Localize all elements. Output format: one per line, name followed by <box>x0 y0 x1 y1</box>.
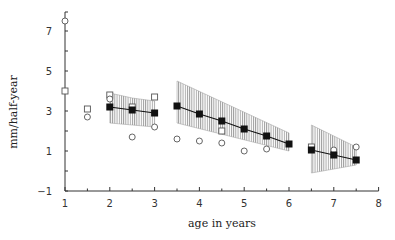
x-tick-label: 8 <box>375 198 381 209</box>
x-tick-label: 7 <box>331 198 337 209</box>
y-tick-label: 7 <box>46 26 52 37</box>
x-axis-label: age in years <box>188 217 256 230</box>
open-circle-point <box>241 148 247 154</box>
open-circle-point <box>353 144 359 150</box>
open-circle-point <box>107 96 113 102</box>
x-tick-label: 6 <box>286 198 292 209</box>
mean-point <box>330 152 337 159</box>
chart-canvas: 12345678−11357 age in years mm/half-year <box>0 0 395 240</box>
mean-point <box>196 111 203 118</box>
mean-point <box>129 107 136 114</box>
x-tick-label: 3 <box>151 198 157 209</box>
mean-point <box>308 147 315 154</box>
confidence-bands <box>110 81 356 173</box>
y-tick-label: 3 <box>46 106 52 117</box>
open-circle-point <box>129 134 135 140</box>
mean-point <box>286 141 293 148</box>
open-circle-point <box>219 140 225 146</box>
mean-point <box>151 110 158 117</box>
open-circle-point <box>264 146 270 152</box>
x-tick-label: 2 <box>107 198 113 209</box>
mean-point <box>174 103 181 110</box>
y-tick-label: 1 <box>46 146 52 157</box>
mean-point <box>353 157 360 164</box>
open-circle-point <box>152 124 158 130</box>
confidence-band <box>177 81 289 151</box>
open-square-point <box>219 128 225 134</box>
open-circle-point <box>84 114 90 120</box>
open-circle-point <box>174 136 180 142</box>
open-square-point <box>62 88 68 94</box>
y-tick-label: 5 <box>46 66 52 77</box>
x-tick-label: 5 <box>241 198 247 209</box>
mean-point <box>218 118 225 125</box>
x-tick-label: 1 <box>62 198 68 209</box>
open-square-point <box>84 106 90 112</box>
mean-point <box>263 133 270 140</box>
x-tick-label: 4 <box>196 198 202 209</box>
open-circle-point <box>196 138 202 144</box>
open-square-point <box>152 94 158 100</box>
mean-point <box>106 104 113 111</box>
mean-point <box>241 126 248 133</box>
y-axis-label: mm/half-year <box>7 74 20 148</box>
open-circle-point <box>62 18 68 24</box>
y-tick-label: −1 <box>37 186 52 197</box>
